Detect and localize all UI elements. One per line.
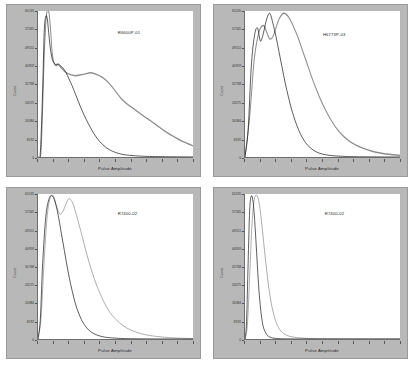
x-tick xyxy=(177,341,178,344)
histogram-panel-4: Count 6553557345491514095932768245751638… xyxy=(213,187,408,359)
x-tick xyxy=(193,159,194,162)
x-tick xyxy=(260,159,261,162)
y-tick-label: 24575 xyxy=(232,283,241,287)
x-tick xyxy=(193,341,194,344)
x-tick xyxy=(68,341,69,344)
x-tick xyxy=(275,159,276,162)
y-tick-labels-4: 6553557345491514095932768245751638481920 xyxy=(223,192,243,354)
x-tick xyxy=(99,341,100,344)
y-tick-label: 16384 xyxy=(232,301,241,305)
x-tick xyxy=(369,159,370,162)
x-tick xyxy=(400,159,401,162)
y-tick-label: 0 xyxy=(32,338,34,342)
plot-area-4 xyxy=(244,194,400,340)
y-tick-label: 49151 xyxy=(232,46,241,50)
y-tick-label: 24575 xyxy=(232,101,241,105)
x-tick xyxy=(306,341,307,344)
x-axis-label-3: Pulse Amplitude xyxy=(37,348,193,353)
y-tick-label: 57345 xyxy=(232,27,241,31)
y-tick-label: 57345 xyxy=(25,27,34,31)
y-tick-label: 65535 xyxy=(232,192,241,196)
x-tick xyxy=(306,159,307,162)
y-tick-label: 49151 xyxy=(25,229,34,233)
x-ticks-1 xyxy=(37,159,193,162)
x-ticks-2 xyxy=(244,159,400,162)
y-tick-label: 65535 xyxy=(25,192,34,196)
panel-cell-1: Count 6553557345491514095932768245751638… xyxy=(0,0,207,183)
panel-title-2: H6773P-03 xyxy=(323,32,346,37)
y-tick-label: 24575 xyxy=(25,283,34,287)
x-tick xyxy=(99,159,100,162)
y-tick-label: 57345 xyxy=(232,210,241,214)
y-tick-label: 24575 xyxy=(25,101,34,105)
y-tick-label: 40959 xyxy=(25,64,34,68)
x-tick xyxy=(131,341,132,344)
y-tick-label: 40959 xyxy=(232,247,241,251)
x-tick xyxy=(84,159,85,162)
x-tick xyxy=(338,341,339,344)
series-black-1 xyxy=(38,16,193,157)
x-tick xyxy=(291,159,292,162)
y-tick-label: 40959 xyxy=(25,247,34,251)
y-tick-label: 16384 xyxy=(232,119,241,123)
x-tick xyxy=(131,159,132,162)
series-gray-3 xyxy=(38,195,193,339)
y-tick-label: 8192 xyxy=(234,138,241,142)
y-tick-label: 49151 xyxy=(25,46,34,50)
x-tick xyxy=(275,341,276,344)
x-axis-label-4: Pulse Amplitude xyxy=(244,348,400,353)
x-ticks-3 xyxy=(37,341,193,344)
panel-title-4: R7400-02 xyxy=(325,211,345,216)
y-tick-label: 65535 xyxy=(232,9,241,13)
x-tick xyxy=(244,341,245,344)
y-tick-label: 8192 xyxy=(27,320,34,324)
histogram-panel-1: Count 6553557345491514095932768245751638… xyxy=(6,4,201,177)
series-gray-4 xyxy=(245,195,400,339)
x-tick xyxy=(162,341,163,344)
x-tick xyxy=(177,159,178,162)
y-tick-label: 0 xyxy=(239,338,241,342)
histogram-figure-page: Count 6553557345491514095932768245751638… xyxy=(0,0,414,365)
x-axis-label-1: Pulse Amplitude xyxy=(37,166,193,171)
x-tick xyxy=(53,159,54,162)
histogram-panel-3: Count 6553557345491514095932768245751638… xyxy=(6,187,201,359)
x-tick xyxy=(338,159,339,162)
panel-cell-3: Count 6553557345491514095932768245751638… xyxy=(0,183,207,365)
y-tick-label: 8192 xyxy=(27,138,34,142)
x-tick xyxy=(244,159,245,162)
plot-area-3 xyxy=(37,194,193,340)
panel-title-1: R6600P-01 xyxy=(118,30,141,35)
y-tick-label: 49151 xyxy=(232,229,241,233)
y-tick-label: 65535 xyxy=(25,9,34,13)
y-tick-label: 16384 xyxy=(25,119,34,123)
y-tick-label: 32768 xyxy=(232,265,241,269)
y-tick-label: 0 xyxy=(32,156,34,160)
x-tick xyxy=(162,159,163,162)
x-tick xyxy=(322,159,323,162)
x-tick xyxy=(68,159,69,162)
x-tick xyxy=(322,341,323,344)
x-tick xyxy=(37,159,38,162)
y-tick-label: 32768 xyxy=(25,265,34,269)
x-tick xyxy=(115,159,116,162)
panel-title-3: R7400-02 xyxy=(118,211,138,216)
panel-cell-2: Count 6553557345491514095932768245751638… xyxy=(207,0,414,183)
y-tick-label: 8192 xyxy=(234,320,241,324)
y-tick-label: 32768 xyxy=(232,82,241,86)
series-black-4 xyxy=(245,196,400,339)
y-tick-label: 32768 xyxy=(25,82,34,86)
x-tick xyxy=(384,341,385,344)
x-tick xyxy=(53,341,54,344)
x-tick xyxy=(353,341,354,344)
histogram-panel-2: Count 6553557345491514095932768245751638… xyxy=(213,4,408,177)
x-ticks-4 xyxy=(244,341,400,344)
y-tick-label: 57345 xyxy=(25,210,34,214)
y-tick-label: 0 xyxy=(239,156,241,160)
x-tick xyxy=(146,159,147,162)
x-tick xyxy=(115,341,116,344)
y-tick-label: 40959 xyxy=(232,64,241,68)
y-tick-labels-2: 6553557345491514095932768245751638481920 xyxy=(223,9,243,172)
plot-area-1 xyxy=(37,11,193,158)
x-tick xyxy=(260,341,261,344)
panel-grid: Count 6553557345491514095932768245751638… xyxy=(0,0,414,365)
